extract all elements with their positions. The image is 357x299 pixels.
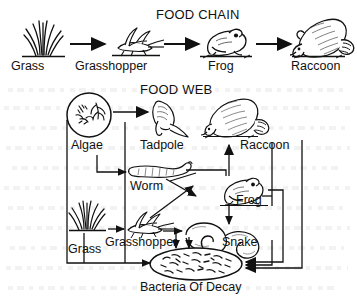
raccoon-icon-web: [201, 99, 269, 137]
food-web-label-grasshopper: Grasshopper: [105, 236, 177, 249]
food-web-label-grass: Grass: [68, 243, 101, 256]
food-web-label-frog: Frog: [236, 194, 262, 207]
food-web-title: FOOD WEB: [140, 83, 212, 96]
grasshopper-icon-chain: [118, 28, 164, 51]
food-chain-food-web-diagram: FOOD CHAIN Grass Grasshopper Frog Raccoo…: [0, 0, 357, 299]
food-chain-label-raccoon: Raccoon: [291, 60, 340, 73]
grass-tuft-icon-chain: [24, 21, 63, 56]
food-web-label-snake: Snake: [222, 236, 257, 249]
tadpole-icon: [153, 101, 188, 137]
grasshopper-icon-web: [128, 212, 174, 233]
food-chain-label-grasshopper: Grasshopper: [75, 60, 147, 73]
food-web-label-bacteria: Bacteria Of Decay: [140, 281, 241, 294]
food-web-label-raccoon: Raccoon: [240, 139, 289, 152]
food-web-label-tadpole: Tadpole: [140, 139, 184, 152]
food-chain-label-grass: Grass: [11, 60, 44, 73]
link-worm-top-to-frog: [186, 170, 226, 176]
algae-circle-icon: [67, 93, 111, 137]
food-web-label-worm: Worm: [130, 180, 163, 193]
food-chain-label-frog: Frog: [208, 60, 234, 73]
grass-tuft-icon-web: [69, 201, 105, 230]
food-chain-title: FOOD CHAIN: [156, 8, 240, 21]
link-grass-to-worm: [97, 155, 126, 172]
food-web-label-algae: Algae: [71, 139, 103, 152]
